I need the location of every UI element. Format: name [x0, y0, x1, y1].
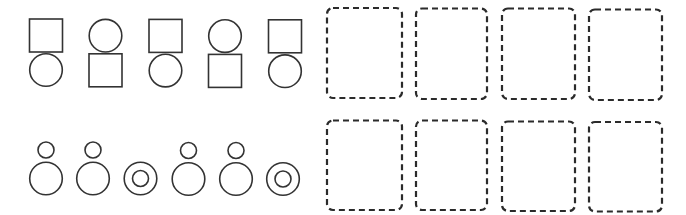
answer-box-1: [327, 8, 402, 98]
answer-box-2: [416, 121, 487, 211]
stack-figure-2: [89, 19, 122, 86]
top-row-answer-boxes: [327, 8, 662, 100]
answer-box-3: [502, 9, 575, 100]
circle-figure-2: [77, 142, 110, 195]
large-circle: [77, 162, 110, 195]
large-circle: [220, 163, 253, 196]
answer-box-4: [589, 122, 662, 212]
circle-shape: [149, 54, 182, 87]
circle-shape: [209, 20, 242, 53]
stack-figure-1: [30, 19, 63, 86]
bottom-row-answer-boxes: [327, 121, 662, 212]
small-circle: [85, 142, 101, 158]
circle-figure-3: [124, 162, 157, 195]
puzzle-canvas: [0, 0, 686, 215]
circle-figure-1: [30, 142, 63, 195]
answer-box-4: [589, 10, 662, 101]
square-shape: [269, 20, 302, 53]
large-circle: [267, 163, 300, 196]
circle-shape: [89, 19, 122, 52]
circle-shape: [269, 55, 302, 88]
stack-figure-4: [209, 20, 242, 88]
circle-figure-6: [267, 163, 300, 196]
large-circle: [172, 163, 205, 196]
square-shape: [149, 19, 182, 52]
large-circle: [124, 162, 157, 195]
small-circle: [38, 142, 54, 158]
square-shape: [30, 19, 63, 52]
top-row-figures: [30, 19, 302, 88]
inner-circle: [275, 171, 291, 187]
answer-box-3: [502, 122, 575, 212]
stack-figure-5: [269, 20, 302, 88]
large-circle: [30, 162, 63, 195]
square-shape: [89, 54, 122, 87]
small-circle: [228, 143, 244, 159]
stack-figure-3: [149, 19, 182, 86]
circle-shape: [30, 54, 63, 87]
square-shape: [209, 54, 242, 87]
circle-figure-5: [220, 143, 253, 196]
small-circle: [181, 143, 197, 159]
answer-box-1: [327, 121, 402, 211]
inner-circle: [133, 171, 149, 187]
answer-box-2: [416, 9, 487, 100]
circle-figure-4: [172, 143, 205, 196]
bottom-row-figures: [30, 142, 300, 195]
